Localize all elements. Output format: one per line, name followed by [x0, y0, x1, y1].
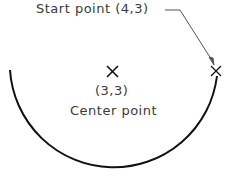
center-coordinate-label: (3,3) — [95, 83, 128, 98]
leader-arrow — [165, 10, 214, 65]
center-point-label: Center point — [70, 103, 157, 118]
start-point-marker-icon — [211, 66, 221, 76]
start-point-label: Start point (4,3) — [36, 1, 149, 16]
center-marker-icon — [107, 66, 118, 77]
